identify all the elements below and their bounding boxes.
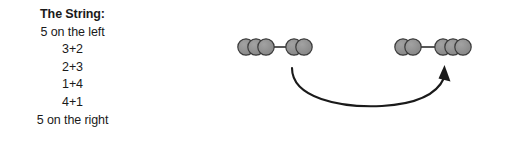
string-text-block: The String: 5 on the left 3+2 2+3 1+4 4+… xyxy=(0,6,145,129)
bead xyxy=(296,39,312,55)
page-title: The String: xyxy=(0,6,145,24)
text-line-4-plus-1: 4+1 xyxy=(0,94,145,112)
right-string-group xyxy=(395,39,471,55)
bead-string-diagram xyxy=(230,20,528,115)
text-line-1-plus-4: 1+4 xyxy=(0,76,145,94)
text-line-3-plus-2: 3+2 xyxy=(0,41,145,59)
text-line-5-on-the-left: 5 on the left xyxy=(0,24,145,42)
bead xyxy=(405,39,421,55)
text-line-5-on-the-right: 5 on the right xyxy=(0,112,145,130)
bead xyxy=(455,39,471,55)
slide-canvas: The String: 5 on the left 3+2 2+3 1+4 4+… xyxy=(0,0,528,149)
arrow-curve xyxy=(292,68,444,106)
arrow-head-icon xyxy=(439,65,451,82)
left-string-group xyxy=(238,39,312,55)
text-line-2-plus-3: 2+3 xyxy=(0,59,145,77)
transform-arrow xyxy=(292,65,451,106)
bead xyxy=(258,39,274,55)
diagram-svg xyxy=(230,20,528,115)
